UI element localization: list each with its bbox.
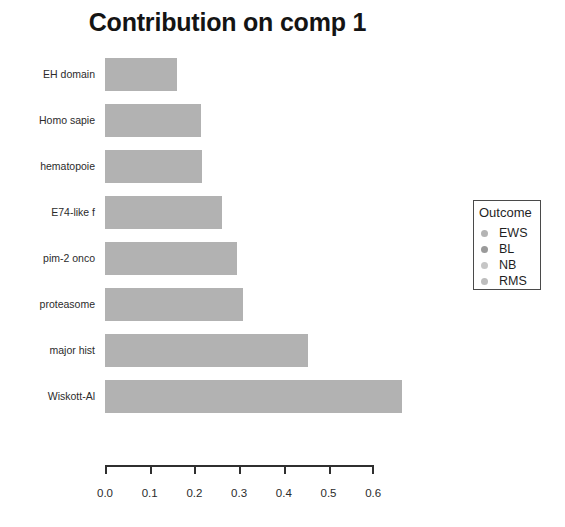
bar <box>105 288 243 321</box>
bar <box>105 380 402 413</box>
legend-dot-icon <box>481 230 488 237</box>
category-label: EH domain <box>0 69 95 80</box>
category-label: pim-2 onco <box>0 253 95 264</box>
legend-title: Outcome <box>479 205 532 220</box>
legend-box: Outcome EWSBLNBRMS <box>473 200 541 290</box>
x-axis-tick-label: 0.2 <box>186 487 202 499</box>
x-axis-tick <box>329 465 331 474</box>
legend-dot-icon <box>481 262 488 269</box>
legend-item-label: EWS <box>499 226 527 240</box>
legend-dot-icon <box>481 278 488 285</box>
x-axis-tick <box>372 465 374 474</box>
x-axis-tick <box>105 465 107 474</box>
chart-page: Contribution on comp 1 EH domainHomo sap… <box>0 0 565 527</box>
bar <box>105 104 201 137</box>
bar <box>105 334 308 367</box>
category-label: major hist <box>0 345 95 356</box>
x-axis-tick-label: 0.6 <box>365 487 381 499</box>
category-label: Wiskott-Al <box>0 391 95 402</box>
legend-dot-icon <box>481 246 488 253</box>
category-label: Homo sapie <box>0 115 95 126</box>
x-axis-tick-label: 0.0 <box>97 487 113 499</box>
x-axis-tick-label: 0.4 <box>276 487 292 499</box>
x-axis-tick <box>239 465 241 474</box>
legend-item[interactable]: NB <box>479 257 539 273</box>
category-label: proteasome <box>0 299 95 310</box>
bar <box>105 150 202 183</box>
legend-item[interactable]: RMS <box>479 273 539 289</box>
bar <box>105 242 237 275</box>
x-axis-tick <box>194 465 196 474</box>
x-axis-tick-label: 0.3 <box>231 487 247 499</box>
legend-item-label: NB <box>499 258 516 272</box>
legend-item[interactable]: EWS <box>479 225 539 241</box>
legend-item-label: BL <box>499 242 514 256</box>
legend-item[interactable]: BL <box>479 241 539 257</box>
bar <box>105 196 222 229</box>
category-label: E74-like f <box>0 207 95 218</box>
x-axis-tick-label: 0.1 <box>142 487 158 499</box>
x-axis-tick-label: 0.5 <box>321 487 337 499</box>
x-axis-tick <box>284 465 286 474</box>
legend-item-label: RMS <box>499 274 527 288</box>
bar <box>105 58 177 91</box>
category-label: hematopoie <box>0 161 95 172</box>
x-axis-tick <box>150 465 152 474</box>
